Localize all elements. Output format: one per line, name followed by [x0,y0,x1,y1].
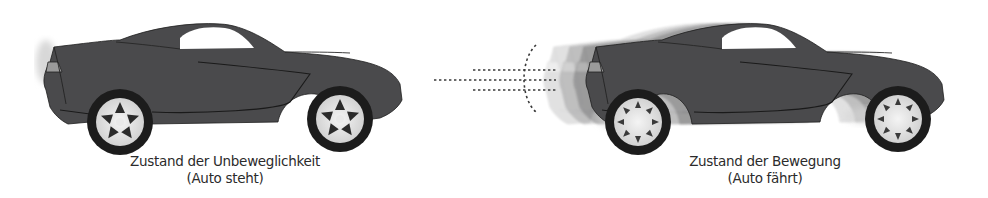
moving-car [586,24,944,155]
speed-lines [434,70,556,90]
stationary-car [36,24,402,155]
caption-moving-title: Zustand der Bewegung [640,153,890,170]
rear-wheel [87,89,153,155]
caption-moving-subtitle: (Auto fährt) [640,170,890,187]
motion-arc [524,45,536,112]
caption-stationary-title: Zustand der Unbeweglichkeit [100,153,350,170]
caption-moving: Zustand der Bewegung (Auto fährt) [640,153,890,187]
front-wheel [865,86,931,152]
front-wheel [307,86,373,152]
caption-stationary-subtitle: (Auto steht) [100,170,350,187]
physics-diagram: Zustand der Unbeweglichkeit (Auto steht)… [0,0,988,198]
rear-wheel [605,89,671,155]
caption-stationary: Zustand der Unbeweglichkeit (Auto steht) [100,153,350,187]
